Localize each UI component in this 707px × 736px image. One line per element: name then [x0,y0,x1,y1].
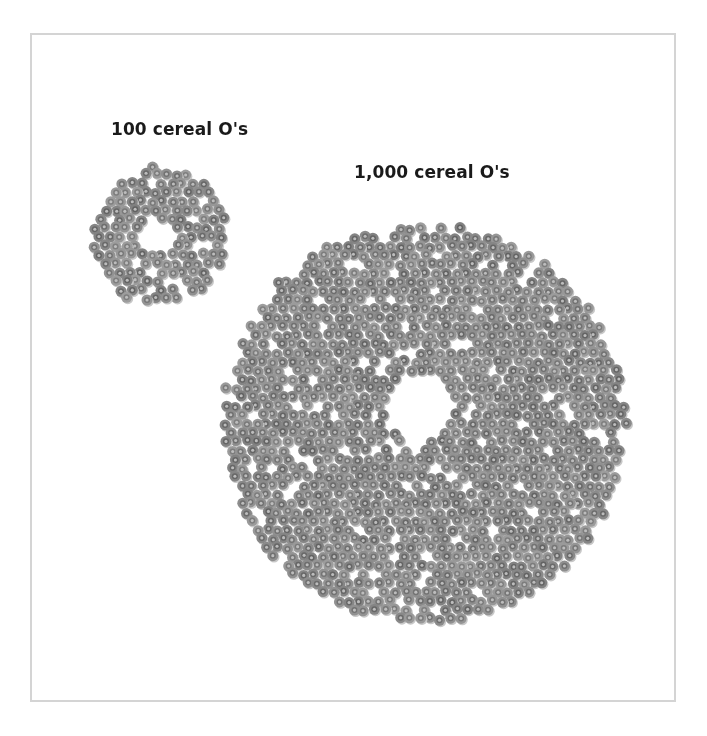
cereal-arrangement-image [0,0,707,736]
label-1000-cereal: 1,000 cereal O's [354,162,510,182]
label-100-cereal: 100 cereal O's [111,119,248,139]
